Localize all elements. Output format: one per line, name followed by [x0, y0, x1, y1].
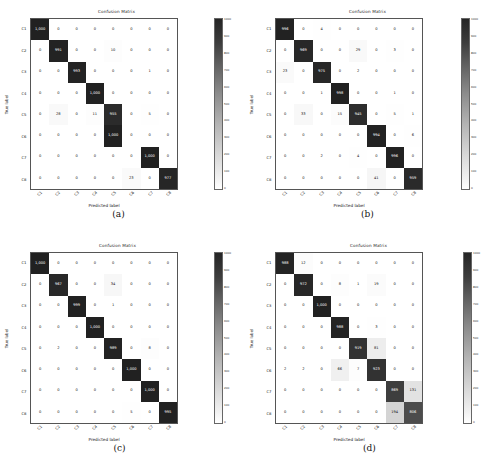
heatmap-cell: 0 — [122, 125, 140, 146]
x-tick-label: C1 — [30, 425, 49, 437]
y-axis-ticks-c: C1C2C3C4C5C6C7C8 — [14, 252, 28, 424]
heatmap-cell: 0 — [104, 253, 122, 274]
heatmap-cell: 1 — [141, 62, 159, 83]
heatmap-cell: 81 — [367, 338, 385, 359]
heatmap-cell: 0 — [159, 296, 177, 317]
heatmap-cell: 0 — [349, 381, 367, 402]
x-tick-label: C6 — [368, 425, 387, 437]
heatmap-cell: 0 — [68, 381, 86, 402]
x-tick-label: C8 — [160, 191, 179, 203]
colorbar-tick-label: 700 — [473, 303, 487, 306]
colorbar-tick-label: 400 — [473, 353, 487, 356]
colorbar-tick-label: 1000 — [473, 252, 487, 255]
x-axis-title-c: Predicted label — [30, 437, 178, 442]
heatmap-cell: 0 — [294, 19, 312, 40]
heatmap-cell: 0 — [122, 147, 140, 168]
colorbar-tick-label: 400 — [224, 119, 238, 122]
heatmap-cell: 0 — [68, 104, 86, 125]
heatmap-cell: 0 — [367, 296, 385, 317]
heatmap-cell: 0 — [141, 274, 159, 295]
x-tick-label: C2 — [294, 425, 313, 437]
heatmap-cell: 0 — [294, 168, 312, 189]
heatmap-cell: 0 — [404, 62, 422, 83]
heatmap-cell: 0 — [104, 381, 122, 402]
heatmap-cell: 0 — [159, 317, 177, 338]
heatmap-cell: 0 — [386, 274, 404, 295]
heatmap-cell: 0 — [349, 83, 367, 104]
heatmap-cell: 0 — [294, 147, 312, 168]
colorbar-tick-label: 400 — [224, 353, 238, 356]
heatmap-cell: 0 — [404, 317, 422, 338]
x-tick-label: C3 — [67, 191, 86, 203]
heatmap-cell: 0 — [122, 381, 140, 402]
heatmap-cell: 0 — [349, 402, 367, 423]
heatmap-cell: 23 — [122, 168, 140, 189]
subplot-caption-d: (d) — [249, 443, 490, 453]
heatmap-cell: 0 — [159, 274, 177, 295]
heatmap-cell: 0 — [141, 253, 159, 274]
heatmap-cell: 2 — [349, 62, 367, 83]
heatmap-cell: 0 — [68, 359, 86, 380]
heatmap-cell: 0 — [68, 147, 86, 168]
heatmap-cell: 0 — [276, 83, 294, 104]
heatmap-cell: 0 — [68, 338, 86, 359]
colorbar-tick-label: 0 — [224, 421, 238, 424]
heatmap-d: 9881200000009720811900001,00000000000988… — [275, 252, 423, 424]
x-tick-label: C1 — [30, 191, 49, 203]
subplot-d: Confusion Matrix True label C1C2C3C4C5C6… — [245, 234, 490, 467]
heatmap-cell: 0 — [49, 359, 67, 380]
colorbar-tick-label: 800 — [471, 52, 485, 55]
heatmap-cell: 0 — [404, 40, 422, 61]
heatmap-cell: 0 — [386, 253, 404, 274]
heatmap-cell: 0 — [367, 62, 385, 83]
heatmap-cell: 1,000 — [122, 359, 140, 380]
heatmap-cell: 991 — [49, 40, 67, 61]
chart-title-b: Confusion Matrix — [245, 9, 490, 14]
heatmap-cell: 0 — [404, 19, 422, 40]
heatmap-cell: 0 — [104, 62, 122, 83]
colorbar-tick-label: 100 — [224, 170, 238, 173]
x-tick-label: C7 — [141, 191, 160, 203]
heatmap-grid-d: 9881200000009720811900001,00000000000988… — [275, 252, 423, 424]
heatmap-cell: 0 — [276, 381, 294, 402]
y-axis-ticks-a: C1C2C3C4C5C6C7C8 — [14, 18, 28, 190]
y-tick-label: C2 — [259, 40, 273, 62]
colorbar-tick-label: 600 — [471, 86, 485, 89]
colorbar-tick-label: 0 — [473, 421, 487, 424]
heatmap-cell: 11 — [86, 104, 104, 125]
heatmap-cell: 998 — [331, 83, 349, 104]
heatmap-cell: 972 — [294, 274, 312, 295]
heatmap-cell: 5 — [122, 402, 140, 423]
heatmap-cell: 0 — [367, 381, 385, 402]
subplot-caption-a: (a) — [0, 209, 245, 219]
heatmap-cell: 0 — [331, 381, 349, 402]
x-tick-label: C8 — [160, 425, 179, 437]
heatmap-cell: 1 — [386, 83, 404, 104]
heatmap-cell: 0 — [68, 168, 86, 189]
heatmap-cell: 0 — [122, 317, 140, 338]
x-tick-label: C7 — [386, 425, 405, 437]
heatmap-cell: 1 — [104, 296, 122, 317]
x-tick-label: C1 — [275, 191, 294, 203]
heatmap-cell: 194 — [386, 402, 404, 423]
heatmap-cell: 0 — [159, 83, 177, 104]
chart-title-d: Confusion Matrix — [247, 243, 490, 248]
heatmap-cell: 0 — [276, 338, 294, 359]
heatmap-cell: 1,000 — [31, 253, 49, 274]
heatmap-cell: 0 — [313, 402, 331, 423]
heatmap-cell: 0 — [122, 19, 140, 40]
heatmap-cell: 0 — [294, 125, 312, 146]
heatmap-cell: 0 — [404, 338, 422, 359]
heatmap-cell: 0 — [86, 125, 104, 146]
heatmap-cell: 0 — [141, 40, 159, 61]
y-axis-title-c: True label — [2, 252, 11, 424]
y-tick-label: C6 — [259, 360, 273, 382]
heatmap-cell: 0 — [104, 359, 122, 380]
heatmap-cell: 0 — [86, 338, 104, 359]
heatmap-cell: 0 — [313, 253, 331, 274]
y-tick-label: C3 — [14, 61, 28, 83]
heatmap-cell: 0 — [367, 253, 385, 274]
heatmap-cell: 959 — [404, 168, 422, 189]
x-axis-title-b: Predicted label — [275, 203, 423, 208]
heatmap-cell: 7 — [349, 359, 367, 380]
